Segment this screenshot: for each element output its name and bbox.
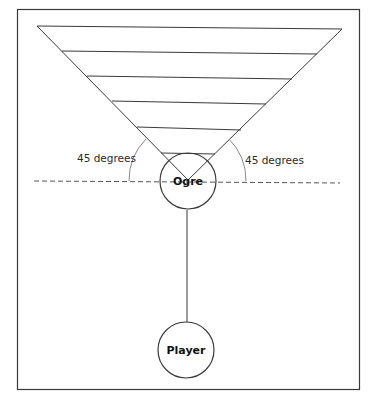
right-angle-label: 45 degrees: [245, 154, 304, 166]
cone-band-3: [87, 76, 292, 79]
player-label: Player: [167, 344, 207, 357]
field-of-view-diagram: Ogre Player 45 degrees 45 degrees: [0, 0, 377, 403]
cone-band-1: [37, 26, 342, 29]
cone-band-4: [112, 101, 266, 104]
player-node: Player: [158, 322, 214, 378]
right-angle-arc: [229, 139, 246, 181]
ogre-label: Ogre: [173, 175, 203, 188]
cone-band-2: [62, 51, 317, 54]
ogre-node: Ogre: [160, 153, 216, 209]
left-angle-label: 45 degrees: [77, 152, 136, 164]
cone-band-5: [137, 127, 241, 130]
